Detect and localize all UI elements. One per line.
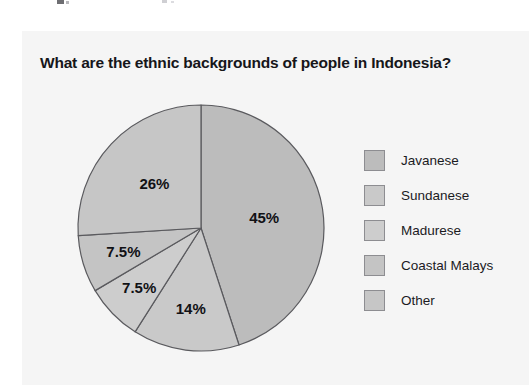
legend-swatch-icon [364,290,385,311]
bleed-mark [57,0,64,4]
legend-item-label: Other [401,293,435,308]
pie-slice-other[interactable] [78,105,201,236]
legend: Javanese Sundanese Madurese Coastal Mala… [364,143,524,318]
legend-item-label: Madurese [401,223,461,238]
legend-swatch-icon [364,220,385,241]
legend-item-other[interactable]: Other [364,283,524,318]
chart-title: What are the ethnic backgrounds of peopl… [40,54,500,72]
pie-slice-label: 7.5% [106,243,140,260]
legend-item-label: Javanese [401,153,459,168]
legend-swatch-icon [364,185,385,206]
pie-svg: 45%14%7.5%7.5%26% [70,96,334,360]
pie-slice-label: 7.5% [122,279,156,296]
bleed-mark [66,1,69,4]
pie-slice-label: 14% [176,300,206,317]
legend-item-madurese[interactable]: Madurese [364,213,524,248]
pie-chart: 45%14%7.5%7.5%26% [70,96,334,360]
legend-item-coastal-malays[interactable]: Coastal Malays [364,248,524,283]
legend-item-label: Coastal Malays [401,258,493,273]
clipped-text-bleed [0,0,529,10]
chart-page: What are the ethnic backgrounds of peopl… [0,0,529,385]
legend-item-javanese[interactable]: Javanese [364,143,524,178]
legend-swatch-icon [364,255,385,276]
legend-swatch-icon [364,150,385,171]
bleed-mark [171,1,174,3]
legend-item-sundanese[interactable]: Sundanese [364,178,524,213]
pie-slice-label: 45% [249,209,279,226]
pie-slice-label: 26% [139,175,169,192]
legend-item-label: Sundanese [401,188,469,203]
bleed-mark [162,0,167,3]
